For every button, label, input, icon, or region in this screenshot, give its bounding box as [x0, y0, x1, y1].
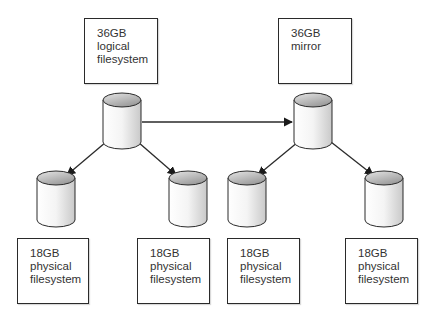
- label-box-phys1: 18GB physical filesystem: [17, 238, 89, 304]
- label-box-phys2: 18GB physical filesystem: [137, 238, 210, 304]
- label-line: filesystem: [358, 273, 417, 286]
- label-line: 36GB: [291, 27, 351, 40]
- label-line: filesystem: [97, 53, 157, 66]
- label-box-mirror: 36GB mirror: [278, 18, 352, 84]
- disk-phys4: [365, 171, 403, 227]
- label-box-phys4: 18GB physical filesystem: [345, 238, 418, 304]
- disk-phys2: [169, 171, 207, 227]
- disk-phys1: [37, 171, 75, 227]
- label-line: filesystem: [240, 273, 299, 286]
- label-line: 18GB: [30, 247, 88, 260]
- arrow-mirror-to-phys3: [258, 142, 298, 175]
- label-line: 36GB: [97, 27, 157, 40]
- disk-logical: [103, 93, 141, 149]
- label-line: filesystem: [150, 273, 209, 286]
- disk-phys3: [228, 171, 266, 227]
- label-line: filesystem: [30, 273, 88, 286]
- label-line: logical: [97, 40, 157, 53]
- arrow-logical-to-phys1: [67, 142, 106, 175]
- label-line: physical: [150, 260, 209, 273]
- label-line: 18GB: [358, 247, 417, 260]
- arrow-mirror-to-phys4: [331, 142, 373, 175]
- label-line: mirror: [291, 40, 351, 53]
- label-line: physical: [30, 260, 88, 273]
- label-line: physical: [240, 260, 299, 273]
- disk-mirror: [294, 93, 332, 149]
- label-line: physical: [358, 260, 417, 273]
- label-line: 18GB: [240, 247, 299, 260]
- label-box-phys3: 18GB physical filesystem: [227, 238, 300, 304]
- label-line: 18GB: [150, 247, 209, 260]
- arrow-logical-to-phys2: [138, 142, 176, 175]
- label-box-logical: 36GB logical filesystem: [84, 18, 158, 84]
